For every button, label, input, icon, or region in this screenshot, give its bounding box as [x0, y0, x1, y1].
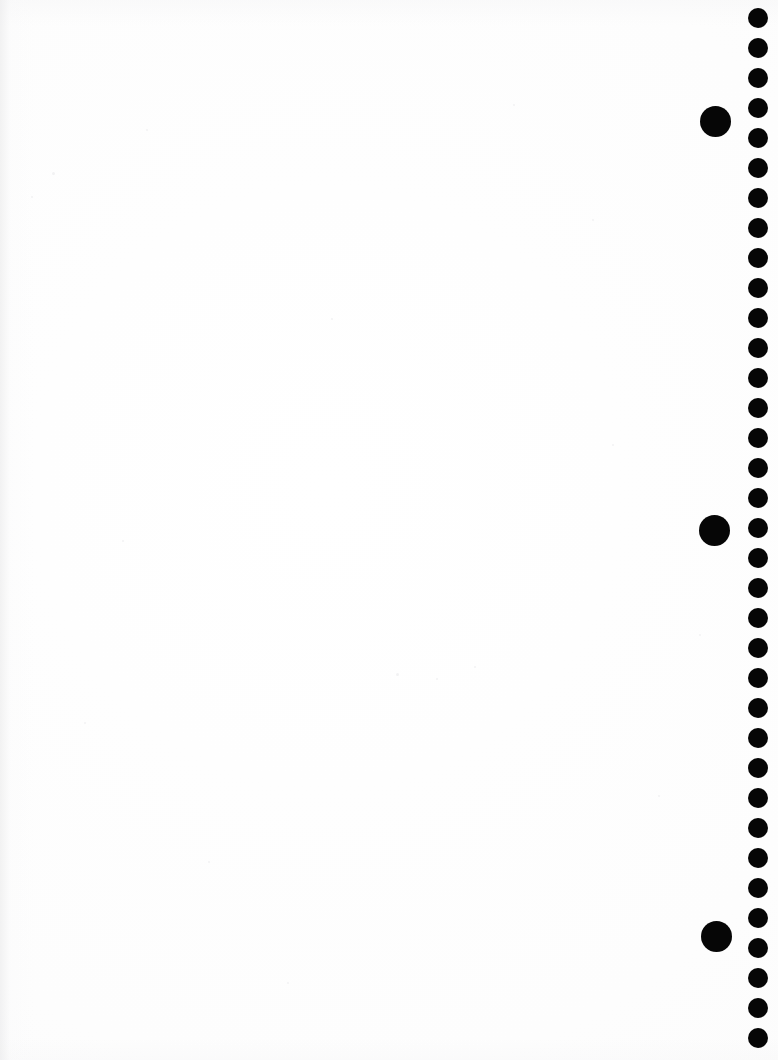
- paper-surface: [0, 0, 778, 1060]
- large-marker-dot: [699, 515, 730, 546]
- large-marker-dot: [701, 921, 732, 952]
- scanned-page: [0, 0, 778, 1060]
- large-marker-dot: [700, 106, 731, 137]
